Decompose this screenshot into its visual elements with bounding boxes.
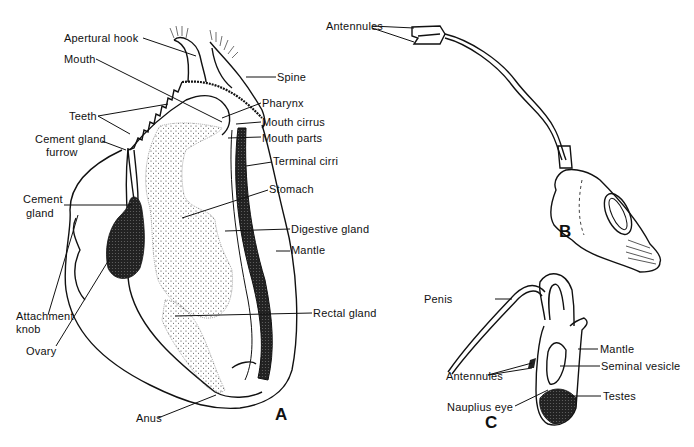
- label-mouth: Mouth: [64, 53, 96, 65]
- label-anus: Anus: [136, 412, 162, 424]
- panel-b-drawing: [412, 26, 660, 272]
- label-cement-gland-line2: gland: [26, 207, 54, 219]
- label-antennules-b: Antennules: [326, 20, 383, 32]
- label-attachment-knob-line2: knob: [16, 323, 41, 335]
- label-apertural-hook: Apertural hook: [64, 32, 138, 44]
- label-pharynx: Pharynx: [262, 97, 304, 109]
- label-seminal-vesicle: Seminal vesicle: [601, 360, 680, 372]
- label-attachment-knob-line1: Attachment: [16, 310, 74, 322]
- panel-letter-c: C: [485, 413, 497, 433]
- panel-letter-b: B: [559, 222, 571, 242]
- panel-letter-a: A: [275, 405, 287, 425]
- label-cement-gland-furrow-line1: Cement gland: [35, 133, 106, 145]
- label-cement-gland-line1: Cement: [23, 193, 63, 205]
- label-mouth-cirrus: Mouth cirrus: [262, 116, 325, 128]
- label-nauplius-eye: Nauplius eye: [447, 401, 513, 413]
- label-rectal-gland: Rectal gland: [313, 307, 377, 319]
- label-spine: Spine: [277, 71, 306, 83]
- label-ovary: Ovary: [26, 345, 56, 357]
- label-antennules-c: Antennules: [446, 370, 503, 382]
- label-stomach: Stomach: [269, 183, 314, 195]
- label-cement-gland-furrow-line2: furrow: [46, 146, 78, 158]
- label-digestive-gland: Digestive gland: [291, 223, 369, 235]
- panel-a-drawing: [65, 26, 297, 408]
- label-mouth-parts: Mouth parts: [262, 132, 322, 144]
- label-terminal-cirri: Terminal cirri: [273, 155, 338, 167]
- label-penis: Penis: [424, 293, 453, 305]
- label-testes: Testes: [603, 390, 636, 402]
- label-teeth: Teeth: [69, 110, 97, 122]
- label-mantle-c: Mantle: [600, 343, 634, 355]
- label-mantle-a: Mantle: [291, 244, 325, 256]
- anatomical-figure: Apertural hook Mouth Spine Pharynx Teeth…: [0, 0, 694, 447]
